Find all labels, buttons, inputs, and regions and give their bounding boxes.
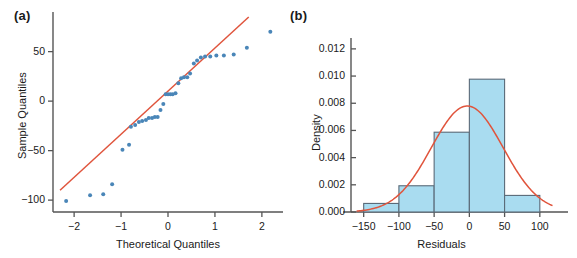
- qq-point: [176, 81, 180, 85]
- qq-point: [110, 182, 114, 186]
- hist-xtick-label: 50: [499, 220, 511, 232]
- hist-ytick-label: 0.000: [319, 205, 345, 217]
- qq-point-group: [64, 30, 272, 203]
- qq-xtick-label: −2: [68, 220, 80, 232]
- qq-xtick-label: 0: [165, 220, 171, 232]
- hist-ytick-label: 0.006: [319, 123, 345, 135]
- qq-ytick-label: −100: [21, 193, 45, 205]
- panel-b-histogram: (b) Residuals Density 0.0000.0020.0040.0…: [288, 0, 577, 258]
- qq-point: [158, 108, 162, 112]
- qq-point: [120, 148, 124, 152]
- hist-xtick-label: −100: [387, 220, 411, 232]
- qq-point: [140, 119, 144, 123]
- hist-ytick-label: 0.010: [319, 69, 345, 81]
- qq-point: [156, 115, 160, 119]
- hist-ytick-label: 0.002: [319, 178, 345, 190]
- qq-point: [129, 125, 133, 129]
- hist-bar-group: [364, 79, 540, 212]
- qq-point: [192, 62, 196, 66]
- hist-ytick-label: 0.012: [319, 42, 345, 54]
- qq-point: [203, 55, 207, 59]
- qq-xtick-label: −1: [115, 220, 127, 232]
- qq-point: [268, 30, 272, 34]
- panel-a-qq-plot: (a) Theoretical Quantiles Sample Quantil…: [0, 0, 288, 258]
- qq-point: [133, 123, 137, 127]
- qq-point: [222, 54, 226, 58]
- qq-point: [185, 75, 189, 79]
- hist-ytick-label: 0.008: [319, 96, 345, 108]
- qq-plot-svg: [0, 0, 288, 258]
- hist-xaxis-title: Residuals: [417, 238, 465, 250]
- qq-point: [195, 59, 199, 63]
- figure-container: (a) Theoretical Quantiles Sample Quantil…: [0, 0, 577, 258]
- qq-point: [208, 55, 212, 59]
- qq-ytick-label: −50: [27, 144, 45, 156]
- hist-ytick-label: 0.004: [319, 151, 345, 163]
- qq-point: [188, 71, 192, 75]
- qq-point: [161, 102, 165, 106]
- qq-reference-line: [60, 17, 249, 190]
- hist-xtick-label: −150: [352, 220, 376, 232]
- qq-point: [174, 91, 178, 95]
- qq-point: [101, 192, 105, 196]
- qq-point: [127, 143, 131, 147]
- hist-bar: [434, 132, 469, 212]
- hist-xtick-label: 0: [466, 220, 472, 232]
- qq-point: [232, 53, 236, 57]
- qq-xaxis-title: Theoretical Quantiles: [116, 238, 220, 250]
- qq-ytick-label: 50: [33, 45, 45, 57]
- qq-point: [245, 46, 249, 50]
- qq-point: [88, 193, 92, 197]
- hist-bar: [469, 79, 504, 212]
- qq-yaxis-title: Sample Quantiles: [16, 72, 28, 159]
- qq-ytick-label: 0: [39, 94, 45, 106]
- hist-bar: [505, 195, 540, 212]
- qq-point: [214, 54, 218, 58]
- qq-point: [199, 56, 203, 60]
- qq-xtick-label: 1: [212, 220, 218, 232]
- hist-xtick-label: −50: [425, 220, 443, 232]
- hist-bar: [364, 203, 399, 212]
- qq-point: [64, 199, 68, 203]
- qq-xtick-label: 2: [259, 220, 265, 232]
- hist-xtick-label: 100: [531, 220, 549, 232]
